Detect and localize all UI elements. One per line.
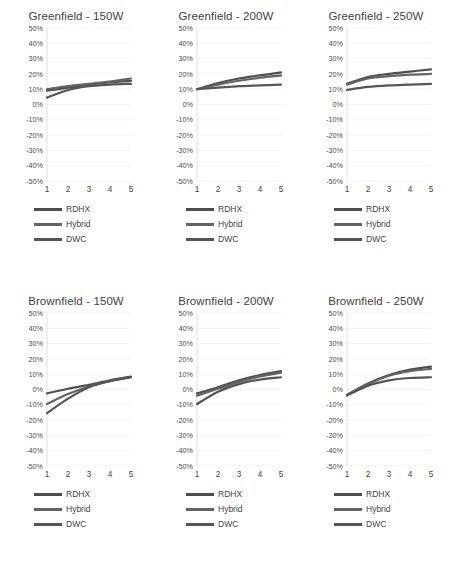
legend-label: Hybrid: [66, 220, 91, 229]
legend-label: RDHX: [218, 205, 242, 214]
x-axis-tick-label: 4: [408, 470, 413, 479]
chart-legend: RDHXHybridDWC: [152, 203, 300, 246]
x-axis-tick-label: 3: [87, 470, 92, 479]
legend-item: DWC: [334, 233, 452, 246]
series-line-dwc: [47, 84, 131, 98]
legend-swatch-rdhx: [186, 208, 214, 211]
y-axis-tick-label: 20%: [29, 70, 44, 79]
y-axis-tick-label: -50%: [326, 462, 343, 471]
y-axis-tick-label: 10%: [329, 370, 344, 379]
y-axis-tick-label: 0%: [33, 385, 44, 394]
y-axis-tick-label: 30%: [179, 339, 194, 348]
y-axis-tick-label: -40%: [176, 446, 193, 455]
y-axis-tick-label: 0%: [333, 385, 344, 394]
y-axis-tick-label: 0%: [183, 100, 194, 109]
y-axis-tick-label: 50%: [179, 309, 194, 318]
legend-swatch-dwc: [34, 238, 62, 241]
y-axis-tick-label: 50%: [29, 24, 44, 33]
y-axis-tick-label: -20%: [176, 131, 193, 140]
y-axis-tick-label: -30%: [26, 431, 43, 440]
y-axis-tick-label: -50%: [26, 177, 43, 186]
legend-item: DWC: [186, 518, 300, 531]
panel-title: Brownfield - 250W: [300, 285, 452, 309]
y-axis-tick-label: 40%: [329, 324, 344, 333]
x-axis-tick-label: 5: [129, 470, 134, 479]
y-axis-tick-label: 40%: [29, 324, 44, 333]
x-axis-tick-label: 4: [258, 470, 263, 479]
x-axis-tick-label: 2: [366, 470, 371, 479]
plot-area: -50%-40%-30%-20%-10%0%10%20%30%40%50%123…: [167, 24, 285, 199]
y-axis-tick-label: -10%: [326, 115, 343, 124]
legend-item: Hybrid: [186, 503, 300, 516]
x-axis-tick-label: 3: [387, 185, 392, 194]
legend-swatch-hybrid: [34, 223, 62, 226]
chart-legend: RDHXHybridDWC: [0, 203, 152, 246]
x-axis-tick-label: 4: [108, 185, 113, 194]
x-axis-tick-label: 3: [237, 470, 242, 479]
x-axis-tick-label: 4: [408, 185, 413, 194]
x-axis-tick-label: 3: [237, 185, 242, 194]
legend-label: RDHX: [366, 490, 390, 499]
plot-area: -50%-40%-30%-20%-10%0%10%20%30%40%50%123…: [167, 309, 285, 484]
legend-swatch-hybrid: [186, 223, 214, 226]
y-axis-tick-label: -40%: [26, 161, 43, 170]
x-axis-tick-label: 1: [45, 185, 50, 194]
x-axis-tick-label: 1: [195, 470, 200, 479]
panel-title: Greenfield - 200W: [152, 0, 300, 24]
y-axis-tick-label: -20%: [26, 131, 43, 140]
y-axis-tick-label: -20%: [176, 416, 193, 425]
y-axis-tick-label: -10%: [26, 115, 43, 124]
y-axis-tick-label: 50%: [179, 24, 194, 33]
legend-swatch-rdhx: [34, 208, 62, 211]
y-axis-tick-label: -40%: [326, 161, 343, 170]
legend-label: DWC: [218, 520, 238, 529]
x-axis-tick-label: 2: [66, 185, 71, 194]
y-axis-tick-label: 30%: [329, 339, 344, 348]
legend-label: DWC: [366, 520, 386, 529]
y-axis-tick-label: 20%: [179, 355, 194, 364]
y-axis-tick-label: 10%: [179, 85, 194, 94]
y-axis-tick-label: 10%: [179, 370, 194, 379]
panel-title: Greenfield - 150W: [0, 0, 152, 24]
series-line-dwc: [47, 377, 131, 413]
chart-panel-brownfield-150w: Brownfield - 150W-50%-40%-30%-20%-10%0%1…: [0, 285, 152, 565]
y-axis-tick-label: -30%: [176, 431, 193, 440]
legend-item: DWC: [334, 518, 452, 531]
y-axis-tick-label: 30%: [179, 54, 194, 63]
chart-panel-brownfield-250w: Brownfield - 250W-50%-40%-30%-20%-10%0%1…: [300, 285, 452, 565]
legend-item: DWC: [34, 518, 152, 531]
legend-label: Hybrid: [366, 505, 391, 514]
legend-label: Hybrid: [366, 220, 391, 229]
y-axis-tick-label: -10%: [176, 400, 193, 409]
x-axis-tick-label: 5: [279, 185, 284, 194]
x-axis-tick-label: 1: [45, 470, 50, 479]
plot-svg: -50%-40%-30%-20%-10%0%10%20%30%40%50%123…: [17, 309, 135, 484]
legend-item: RDHX: [334, 488, 452, 501]
legend-item: RDHX: [186, 488, 300, 501]
plot-svg: -50%-40%-30%-20%-10%0%10%20%30%40%50%123…: [167, 309, 285, 484]
legend-label: RDHX: [66, 490, 90, 499]
chart-legend: RDHXHybridDWC: [300, 203, 452, 246]
y-axis-tick-label: -50%: [176, 177, 193, 186]
figure-grid: Greenfield - 150W-50%-40%-30%-20%-10%0%1…: [0, 0, 452, 565]
x-axis-tick-label: 2: [66, 470, 71, 479]
chart-legend: RDHXHybridDWC: [152, 488, 300, 531]
legend-item: Hybrid: [186, 218, 300, 231]
y-axis-tick-label: 30%: [329, 54, 344, 63]
y-axis-tick-label: 50%: [29, 309, 44, 318]
x-axis-tick-label: 3: [387, 470, 392, 479]
plot-area: -50%-40%-30%-20%-10%0%10%20%30%40%50%123…: [317, 24, 435, 199]
y-axis-tick-label: 20%: [329, 70, 344, 79]
y-axis-tick-label: 10%: [329, 85, 344, 94]
legend-item: Hybrid: [334, 503, 452, 516]
chart-panel-greenfield-200w: Greenfield - 200W-50%-40%-30%-20%-10%0%1…: [152, 0, 300, 285]
y-axis-tick-label: -30%: [326, 431, 343, 440]
chart-panel-greenfield-250w: Greenfield - 250W-50%-40%-30%-20%-10%0%1…: [300, 0, 452, 285]
x-axis-tick-label: 3: [87, 185, 92, 194]
legend-label: DWC: [66, 520, 86, 529]
legend-item: RDHX: [334, 203, 452, 216]
y-axis-tick-label: -40%: [26, 446, 43, 455]
x-axis-tick-label: 1: [345, 470, 350, 479]
y-axis-tick-label: 40%: [179, 324, 194, 333]
y-axis-tick-label: 10%: [29, 85, 44, 94]
